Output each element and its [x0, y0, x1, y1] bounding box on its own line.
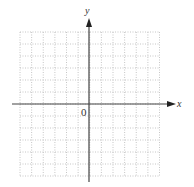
x-axis-label: x	[176, 98, 182, 109]
y-axis-label: y	[84, 5, 90, 16]
origin-label: 0	[81, 106, 87, 118]
coordinate-plane: x y 0	[0, 0, 194, 187]
y-axis-arrow-icon	[86, 18, 92, 27]
x-axis-arrow-icon	[167, 101, 176, 107]
